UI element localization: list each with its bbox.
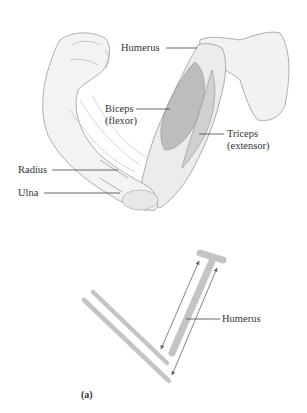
radius-bar	[93, 292, 167, 363]
label-triceps-role: (extensor)	[227, 140, 270, 151]
label-radius: Radius	[18, 164, 47, 175]
label-triceps: Triceps	[227, 128, 258, 139]
ulna-bar	[84, 300, 169, 381]
elbow-shape	[122, 190, 158, 210]
label-ulna: Ulna	[18, 187, 38, 198]
label-schematic-humerus: Humerus	[222, 313, 261, 324]
arm-anatomy-figure	[0, 0, 307, 413]
label-humerus: Humerus	[121, 42, 160, 53]
lever-schematic	[84, 253, 223, 381]
panel-label: (a)	[81, 389, 93, 400]
label-biceps: Biceps	[105, 103, 134, 114]
forearm-shape	[43, 33, 158, 210]
arm-illustration	[43, 32, 289, 210]
triceps-arrow	[172, 268, 217, 375]
humerus-bar	[172, 261, 212, 353]
label-biceps-role: (flexor)	[105, 115, 137, 126]
